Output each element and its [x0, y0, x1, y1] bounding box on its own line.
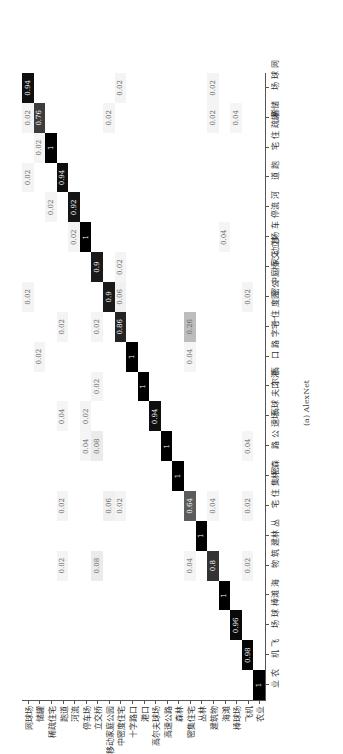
y-tick: [144, 700, 145, 704]
y-tick: [109, 700, 110, 704]
true-class-label: 跑道: [58, 706, 69, 722]
y-tick: [28, 700, 29, 704]
x-tick: [265, 565, 269, 566]
x-tick: [265, 326, 269, 327]
matrix-cell: 0.02: [207, 103, 219, 133]
x-tick: [265, 147, 269, 148]
matrix-cell: 1: [196, 521, 208, 551]
predicted-class-label: 跑道: [271, 161, 279, 183]
matrix-cell: 0.02: [68, 222, 80, 252]
predicted-class-label: 飞机: [271, 638, 279, 660]
matrix-cell: 0.26: [184, 312, 196, 342]
matrix-cell: 0.02: [45, 192, 57, 222]
true-class-label: 高速公路: [162, 706, 173, 738]
matrix-cell: 0.02: [115, 491, 127, 521]
x-tick: [265, 505, 269, 506]
matrix-cell: 0.02: [80, 401, 92, 431]
predicted-class-label: 棒球场: [271, 597, 279, 630]
predicted-class-label: 建筑物: [271, 538, 279, 571]
y-tick: [259, 700, 260, 704]
matrix-cell: 0.9: [103, 282, 115, 312]
matrix-cell: 0.86: [115, 312, 127, 342]
true-class-label: 立交桥: [92, 706, 103, 730]
predicted-class-label: 网球场: [271, 60, 279, 93]
x-tick: [265, 386, 269, 387]
predicted-class-label: 储罐: [271, 101, 279, 123]
figure-caption: (a) AlexNet: [302, 380, 311, 426]
matrix-cell: 0.02: [242, 491, 254, 521]
y-tick: [63, 700, 64, 704]
matrix-cell: 0.02: [57, 312, 69, 342]
matrix-cell: 0.96: [230, 610, 242, 640]
matrix-cell: 0.04: [219, 222, 231, 252]
true-class-label: 移动家庭公园: [104, 706, 115, 754]
y-tick: [39, 700, 40, 704]
matrix-cell: 1: [138, 372, 150, 402]
y-tick: [213, 700, 214, 704]
y-tick: [155, 700, 156, 704]
true-class-label: 稀疏住宅: [46, 706, 57, 738]
matrix-cell: 0.02: [22, 103, 34, 133]
true-class-label: 森林: [173, 706, 184, 722]
matrix-cell: 0.04: [184, 342, 196, 372]
matrix-cell: 1: [161, 431, 173, 461]
predicted-class-label: 丛林: [271, 519, 279, 541]
x-tick: [265, 475, 269, 476]
y-tick: [51, 700, 52, 704]
y-tick: [236, 700, 237, 704]
y-tick: [86, 700, 87, 704]
matrix-cell: 0.02: [242, 282, 254, 312]
matrix-cell: 0.08: [91, 551, 103, 581]
matrix-cell: 0.94: [22, 73, 34, 103]
matrix-cell: 0.06: [103, 491, 115, 521]
matrix-cell: 0.02: [34, 133, 46, 163]
matrix-cell: 0.08: [91, 431, 103, 461]
y-tick: [132, 700, 133, 704]
x-tick: [265, 595, 269, 596]
predicted-class-label: 停车场: [271, 209, 279, 242]
matrix-cell: 0.04: [207, 491, 219, 521]
true-class-label: 农业: [254, 706, 265, 722]
matrix-cell: 0.04: [80, 431, 92, 461]
true-class-label: 建筑物: [208, 706, 219, 730]
predicted-class-label: 海滩: [271, 579, 279, 601]
matrix-cell: 1: [126, 342, 138, 372]
true-class-label: 港口: [139, 706, 150, 722]
matrix-cell: 0.02: [115, 252, 127, 282]
matrix-cell: 0.76: [34, 103, 46, 133]
matrix-cell: 0.04: [242, 431, 254, 461]
y-tick: [97, 700, 98, 704]
matrix-cell: 0.02: [34, 342, 46, 372]
x-tick: [265, 87, 269, 88]
matrix-cell: 0.04: [184, 551, 196, 581]
matrix-cell: 0.02: [22, 282, 34, 312]
matrix-cell: 0.9: [91, 252, 103, 282]
x-tick: [265, 624, 269, 625]
true-class-label: 飞机: [243, 706, 254, 722]
x-tick: [265, 236, 269, 237]
matrix-cell: 1: [253, 670, 265, 700]
matrix-cell: 1: [219, 581, 231, 611]
predicted-class-label: 港口: [271, 370, 279, 392]
true-class-label: 十字路口: [127, 706, 138, 738]
true-class-label: 网球场: [23, 706, 34, 730]
matrix-cell: 0.8: [207, 551, 219, 581]
y-tick: [190, 700, 191, 704]
x-tick: [265, 415, 269, 416]
y-tick: [248, 700, 249, 704]
matrix-cell: 1: [172, 461, 184, 491]
matrix-cell: 0.02: [57, 551, 69, 581]
predicted-class-label: 立交桥: [271, 239, 279, 272]
x-tick: [265, 177, 269, 178]
matrix-cell: 1: [80, 222, 92, 252]
matrix-cell: 0.92: [68, 192, 80, 222]
predicted-class-label: 农业: [271, 668, 279, 690]
x-tick: [265, 356, 269, 357]
true-class-label: 密集住宅: [185, 706, 196, 738]
y-tick: [74, 700, 75, 704]
matrix-cell: 0.06: [115, 282, 127, 312]
x-tick: [265, 266, 269, 267]
matrix-cell: 0.02: [242, 551, 254, 581]
true-class-label: 高尔夫球场: [150, 706, 161, 746]
